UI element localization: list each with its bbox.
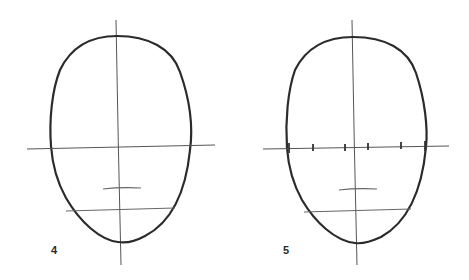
eye-line (27, 145, 215, 149)
vertical-center-line (352, 20, 357, 265)
nose-line (339, 189, 377, 190)
face-construction-drawing-4 (0, 0, 234, 280)
panel-step-5: 5 (235, 0, 469, 280)
mouth-line (304, 209, 411, 212)
step-number: 4 (51, 244, 57, 256)
panel-step-4: 4 (0, 0, 234, 280)
face-construction-drawing-5 (235, 0, 469, 280)
vertical-center-line (116, 20, 121, 265)
head-outline (50, 36, 191, 242)
nose-line (103, 188, 141, 189)
step-number: 5 (283, 244, 289, 256)
eye-line (263, 146, 449, 149)
mouth-line (66, 208, 175, 211)
